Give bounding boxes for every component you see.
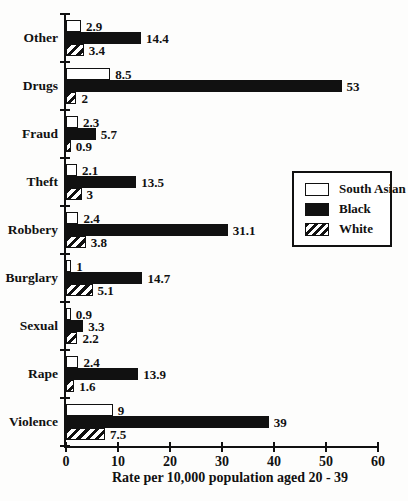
y-axis-tick [60, 13, 70, 15]
category-label-rape: Rape [0, 365, 58, 383]
x-axis-tick [325, 442, 327, 452]
x-tick-label: 10 [103, 454, 133, 470]
x-axis-tick [221, 442, 223, 452]
x-tick-label: 50 [311, 454, 341, 470]
x-axis-tick [377, 442, 379, 452]
bar-fraud-south-asian [66, 116, 78, 128]
x-tick-label: 0 [51, 454, 81, 470]
y-axis-tick [60, 109, 70, 111]
y-axis-tick [60, 61, 70, 63]
value-label-burglary-white: 5.1 [98, 283, 114, 298]
y-axis-tick [60, 157, 70, 159]
bar-theft-black [66, 176, 136, 188]
bar-sexual-white [66, 332, 77, 344]
legend-item-black: Black [305, 202, 384, 216]
value-label-robbery-black: 31.1 [233, 223, 256, 238]
value-label-fraud-black: 5.7 [101, 127, 117, 142]
category-label-drugs: Drugs [0, 77, 58, 95]
value-label-violence-white: 7.5 [110, 427, 126, 442]
bar-sexual-south-asian [66, 308, 71, 320]
category-label-other: Other [0, 29, 58, 47]
bar-burglary-white [66, 284, 93, 296]
x-axis-tick [169, 442, 171, 452]
bar-rape-white [66, 380, 74, 392]
y-axis-tick [60, 253, 70, 255]
value-label-drugs-black: 53 [347, 79, 360, 94]
bar-drugs-black [66, 80, 342, 92]
bar-robbery-white [66, 236, 86, 248]
bar-robbery-south-asian [66, 212, 78, 224]
value-label-drugs-white: 2 [81, 91, 88, 106]
legend-label: South Asian [339, 182, 406, 196]
value-label-other-white: 3.4 [89, 43, 105, 58]
legend-swatch-white [305, 223, 329, 236]
x-axis-title: Rate per 10,000 population aged 20 - 39 [70, 470, 390, 486]
category-label-burglary: Burglary [0, 269, 58, 287]
legend-item-white: White [305, 222, 384, 236]
value-label-burglary-black: 14.7 [147, 271, 170, 286]
y-axis-tick [60, 349, 70, 351]
x-axis-tick [65, 442, 67, 452]
y-axis-tick [60, 205, 70, 207]
y-axis-tick [60, 301, 70, 303]
legend-item-south-asian: South Asian [305, 182, 384, 196]
bar-sexual-black [66, 320, 83, 332]
bar-rape-south-asian [66, 356, 78, 368]
legend-swatch-black [305, 203, 329, 216]
category-label-violence: Violence [0, 413, 58, 431]
bar-theft-white [66, 188, 82, 200]
category-label-theft: Theft [0, 173, 58, 191]
x-tick-label: 30 [207, 454, 237, 470]
legend-swatch-south-asian [305, 183, 329, 196]
x-axis-tick [117, 442, 119, 452]
x-tick-label: 20 [155, 454, 185, 470]
bar-violence-south-asian [66, 404, 113, 416]
bar-fraud-white [66, 140, 71, 152]
x-axis-tick [273, 442, 275, 452]
value-label-violence-black: 39 [274, 415, 287, 430]
bar-other-white [66, 44, 84, 56]
bar-theft-south-asian [66, 164, 77, 176]
bar-burglary-south-asian [66, 260, 71, 272]
bar-drugs-white [66, 92, 76, 104]
bar-violence-black [66, 416, 269, 428]
category-label-fraud: Fraud [0, 125, 58, 143]
bar-rape-black [66, 368, 138, 380]
value-label-theft-white: 3 [87, 187, 94, 202]
category-label-sexual: Sexual [0, 317, 58, 335]
value-label-theft-black: 13.5 [141, 175, 164, 190]
value-label-sexual-white: 2.2 [82, 331, 98, 346]
bar-other-south-asian [66, 20, 81, 32]
legend-label: White [339, 222, 373, 236]
value-label-fraud-white: 0.9 [76, 139, 92, 154]
x-tick-label: 60 [363, 454, 393, 470]
bar-violence-white [66, 428, 105, 440]
category-label-robbery: Robbery [0, 221, 58, 239]
value-label-rape-black: 13.9 [143, 367, 166, 382]
value-label-robbery-white: 3.8 [91, 235, 107, 250]
x-tick-label: 40 [259, 454, 289, 470]
bar-drugs-south-asian [66, 68, 110, 80]
legend: South AsianBlackWhite [292, 171, 392, 247]
legend-label: Black [339, 202, 371, 216]
bar-chart: 0102030405060Other2.914.43.4Drugs8.5532F… [0, 0, 408, 501]
y-axis-tick [60, 397, 70, 399]
value-label-rape-white: 1.6 [79, 379, 95, 394]
value-label-other-black: 14.4 [146, 31, 169, 46]
